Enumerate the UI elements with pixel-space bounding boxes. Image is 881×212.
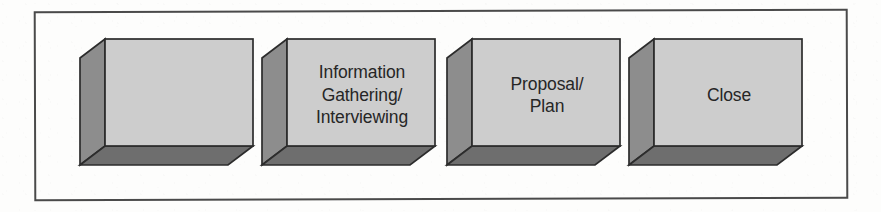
process-step-box-4[interactable]: Close: [629, 38, 803, 166]
step-4-3d-shape: [629, 38, 803, 166]
process-flow-diagram: Information Gathering/ Interviewing Prop…: [0, 0, 881, 212]
step-1-3d-shape: [80, 38, 254, 166]
process-step-box-3[interactable]: Proposal/ Plan: [447, 38, 621, 166]
process-step-box-1[interactable]: [80, 38, 254, 166]
process-step-box-2[interactable]: Information Gathering/ Interviewing: [262, 38, 436, 166]
step-3-3d-shape: [447, 38, 621, 166]
process-steps-row: Information Gathering/ Interviewing Prop…: [0, 0, 881, 212]
step-2-3d-shape: [262, 38, 436, 166]
